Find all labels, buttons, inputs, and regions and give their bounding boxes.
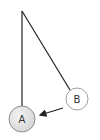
pendulum-diagram: A B [0,0,100,140]
bob-b-label: B [74,94,81,105]
string-b [22,11,70,90]
motion-arrow-icon [40,108,63,115]
bob-a-label: A [19,114,26,125]
